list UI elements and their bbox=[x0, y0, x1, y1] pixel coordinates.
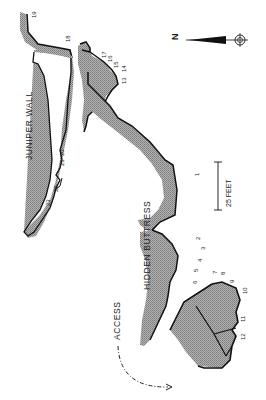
route-19: 19 bbox=[31, 11, 37, 18]
route-8: 8 bbox=[220, 271, 226, 275]
route-13: 13 bbox=[121, 77, 127, 84]
route-7: 7 bbox=[212, 270, 218, 274]
north-arrow-icon: N bbox=[170, 33, 248, 47]
route-6: 6 bbox=[192, 280, 198, 284]
route-3: 3 bbox=[200, 246, 206, 250]
hidden-buttress-rock bbox=[84, 72, 178, 346]
scale-bar: 25 FEET bbox=[214, 162, 232, 210]
route-9: 9 bbox=[229, 279, 235, 283]
route-12: 12 bbox=[240, 333, 246, 340]
route-1: 1 bbox=[194, 172, 200, 176]
route-18: 18 bbox=[65, 35, 71, 42]
access-label: ACCESS bbox=[112, 301, 122, 340]
route-4: 4 bbox=[197, 258, 203, 262]
route-5: 5 bbox=[193, 268, 199, 272]
scale-label: 25 FEET bbox=[225, 179, 232, 207]
north-label: N bbox=[170, 34, 180, 41]
route-20: 20 bbox=[59, 149, 65, 156]
route-14: 14 bbox=[121, 65, 127, 72]
route-15: 15 bbox=[113, 61, 119, 68]
right-block-rock bbox=[170, 282, 240, 368]
route-2: 2 bbox=[195, 236, 201, 240]
route-22: 22 bbox=[53, 185, 59, 192]
route-17: 17 bbox=[101, 51, 107, 58]
route-21: 21 bbox=[59, 159, 65, 166]
route-10: 10 bbox=[242, 287, 248, 294]
area-label-hidden-buttress: HIDDEN BUTTRESS bbox=[142, 201, 152, 290]
route-11: 11 bbox=[240, 315, 246, 322]
route-23: 23 bbox=[45, 199, 51, 206]
area-label-juniper-wall: JUNIPER WALL bbox=[24, 91, 34, 160]
topo-map: JUNIPER WALL HIDDEN BUTTRESS ACCESS N 25… bbox=[0, 0, 266, 400]
route-16: 16 bbox=[107, 55, 113, 62]
access-arrow bbox=[118, 346, 172, 390]
